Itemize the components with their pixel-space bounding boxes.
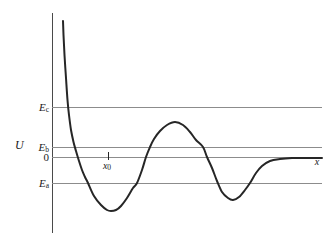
- potential-energy-figure: EcEb0Eax0 U x: [0, 0, 326, 248]
- energy-level-subscript: c: [46, 105, 49, 114]
- potential-energy-curve: [63, 21, 322, 211]
- x0-annotation-label: x0: [103, 161, 111, 171]
- x0-subscript: 0: [107, 163, 111, 172]
- energy-level-label-a: Ea: [39, 178, 49, 189]
- x-axis-label: x: [315, 157, 319, 167]
- energy-level-subscript: a: [46, 181, 49, 190]
- energy-level-label-c: Ec: [39, 102, 49, 113]
- plot-canvas: [0, 0, 326, 248]
- y-axis-label: U: [15, 139, 24, 151]
- energy-level-label-0: 0: [44, 152, 50, 163]
